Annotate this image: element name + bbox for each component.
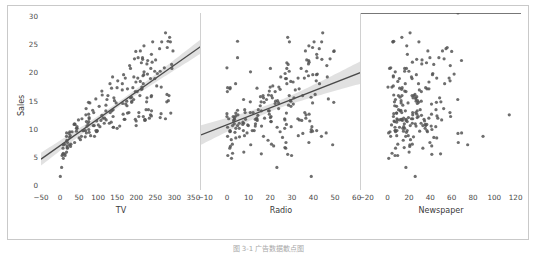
figure-canvas: Sales 051015202530−500501001502002503003… [7, 5, 529, 240]
x-tick-label: 250 [148, 193, 162, 202]
x-tick-label: 40 [426, 193, 435, 202]
x-tick-label: 0 [58, 193, 63, 202]
x-tick-label: 80 [468, 193, 477, 202]
x-tick-label: 50 [330, 193, 339, 202]
y-tick-label: 10 [22, 124, 38, 133]
x-tick-label: −20 [359, 193, 374, 202]
regression-line [41, 46, 201, 159]
scatter-panel-newspaper [361, 13, 521, 190]
x-tick-label: 150 [110, 193, 124, 202]
y-tick-label: 20 [22, 68, 38, 77]
x-tick-label: 100 [91, 193, 105, 202]
x-tick-label: 20 [266, 193, 275, 202]
x-tick-label: 40 [309, 193, 318, 202]
figure-caption: 图 3-1 广告数据散点图 [0, 244, 537, 254]
x-tick-label: 120 [509, 193, 523, 202]
y-tick-label: 0 [22, 181, 38, 190]
y-tick-label: 15 [22, 96, 38, 105]
scatter-panel-tv [41, 13, 201, 190]
x-tick-label: 200 [129, 193, 143, 202]
x-tick-label: 0 [225, 193, 230, 202]
scatter-plot-area [361, 13, 521, 190]
x-tick-label: −10 [198, 193, 213, 202]
x-tick-label: −50 [33, 193, 48, 202]
x-tick-label: 300 [167, 193, 181, 202]
x-axis-label-tv: TV [116, 206, 126, 215]
x-tick-label: 60 [447, 193, 456, 202]
x-tick-label: 10 [244, 193, 253, 202]
y-tick-label: 5 [22, 153, 38, 162]
y-tick-label: 30 [22, 11, 38, 20]
x-tick-label: 100 [487, 193, 501, 202]
x-tick-label: 20 [404, 193, 413, 202]
scatter-panel-radio [201, 13, 361, 190]
x-axis-label-radio: Radio [270, 206, 292, 215]
y-tick-label: 25 [22, 40, 38, 49]
scatter-points [386, 13, 510, 178]
x-tick-label: 50 [75, 193, 84, 202]
x-tick-label: 0 [385, 193, 390, 202]
scatter-plot-area [201, 13, 361, 190]
x-axis-label-newspaper: Newspaper [419, 206, 464, 215]
regression-line [201, 72, 361, 135]
x-tick-label: 30 [287, 193, 296, 202]
scatter-plot-area [41, 13, 201, 190]
